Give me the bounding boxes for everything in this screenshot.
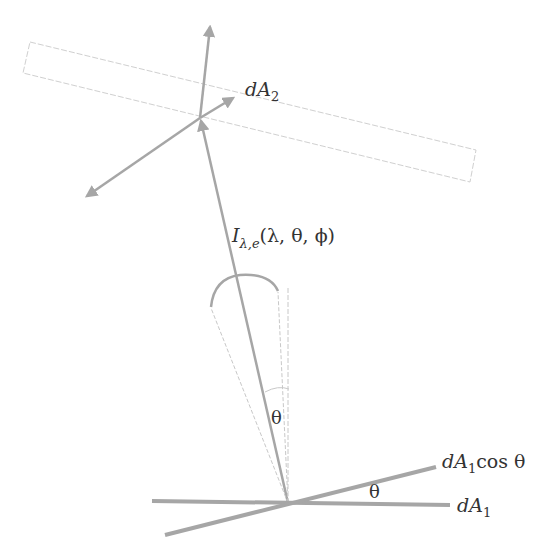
intensity-ray <box>201 121 288 503</box>
label-intensity: Iλ,e(λ, θ, ϕ) <box>231 224 335 251</box>
label-dA1: dA1 <box>457 494 491 520</box>
theta-arc <box>265 388 289 392</box>
label-dA1-cos-theta: dA1cos θ <box>442 450 525 476</box>
cone-edge-right <box>278 292 288 503</box>
tangent-arrow-long <box>87 118 200 196</box>
normal-arrow-dA2 <box>200 27 210 118</box>
label-theta-cone: θ <box>271 407 282 428</box>
surface-dA2 <box>23 42 476 182</box>
radiation-diagram: dA2 Iλ,e(λ, θ, ϕ) θ θ dA1cos θ dA1 <box>0 0 545 559</box>
tangent-arrow-short <box>200 98 233 118</box>
label-theta-surface: θ <box>369 481 380 502</box>
label-dA2: dA2 <box>245 78 279 104</box>
solid-angle-arc <box>211 275 278 307</box>
